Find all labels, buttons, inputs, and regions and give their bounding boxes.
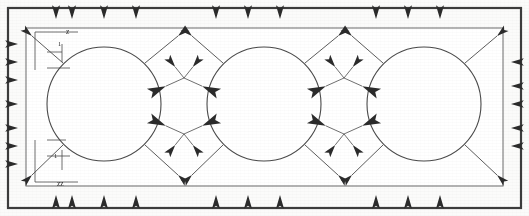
tick-label-bottom: 1	[54, 152, 57, 159]
cylinder-layer	[47, 47, 481, 161]
tick-label-top: 1	[58, 40, 61, 47]
cylinder-1	[47, 47, 161, 161]
cylinder-3	[367, 47, 481, 161]
x-axis-label: zz	[57, 179, 64, 188]
cylinder-2	[207, 47, 321, 161]
figure-container: z11zz	[0, 0, 529, 216]
vector-field-figure: z11zz	[0, 0, 529, 216]
